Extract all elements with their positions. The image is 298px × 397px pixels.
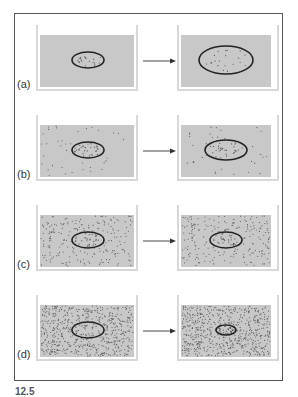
- arrowhead-icon: [170, 59, 176, 64]
- arrowhead-icon: [170, 329, 176, 334]
- panel-label-a: (a): [17, 78, 30, 90]
- arrowhead-icon: [170, 239, 176, 244]
- panel-label-c: (c): [17, 258, 30, 270]
- cell-membrane-icon: [205, 140, 247, 160]
- cell-membrane-icon: [210, 232, 242, 248]
- arrowhead-icon: [170, 149, 176, 154]
- cell-membrane-icon: [72, 52, 104, 68]
- figure-caption: 12.5: [15, 386, 34, 397]
- cell-membrane-icon: [72, 322, 104, 338]
- panel-label-b: (b): [17, 168, 30, 180]
- panel-label-d: (d): [17, 348, 30, 360]
